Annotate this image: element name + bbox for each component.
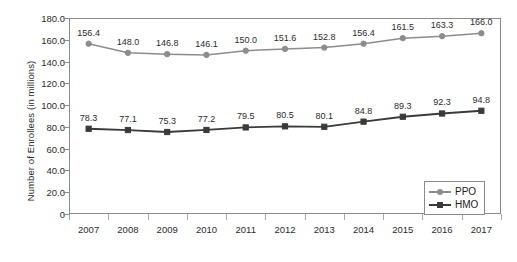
x-axis-tick-mark — [69, 214, 70, 220]
data-point — [164, 51, 169, 56]
y-axis-tick-label: 60.0 — [23, 143, 65, 154]
data-point — [243, 48, 248, 53]
y-axis-tick-label-group: 020.040.060.080.0100.0120.0140.0160.0180… — [20, 0, 65, 262]
data-point — [479, 31, 484, 36]
chart-legend: PPOHMO — [424, 181, 485, 215]
data-point — [165, 129, 170, 134]
legend-label: PPO — [455, 186, 476, 197]
x-axis-tick-mark — [383, 214, 384, 220]
legend-item-ppo[interactable]: PPO — [429, 185, 478, 198]
data-point — [125, 50, 130, 55]
data-point — [125, 127, 130, 132]
legend-swatch-hmo-icon — [429, 199, 451, 210]
legend-marker — [437, 202, 443, 208]
series-ppo — [86, 31, 484, 58]
x-axis-tick-mark — [501, 214, 502, 220]
data-point — [479, 108, 484, 113]
x-axis-tick-mark — [187, 214, 188, 220]
y-axis-tick-label: 180.0 — [23, 13, 65, 24]
legend-label: HMO — [455, 199, 478, 210]
legend-marker — [437, 189, 443, 195]
data-point — [361, 119, 366, 124]
data-point — [439, 33, 444, 38]
x-axis-tick-mark — [305, 214, 306, 220]
data-point — [400, 114, 405, 119]
data-point — [243, 125, 248, 130]
y-axis-tick-label: 100.0 — [23, 100, 65, 111]
data-point — [439, 111, 444, 116]
data-point — [282, 124, 287, 129]
data-point — [86, 126, 91, 131]
chart-figure: Number of Enrollees (in millions) 020.04… — [0, 0, 517, 262]
x-axis-tick-mark — [148, 214, 149, 220]
y-axis-tick-label: 140.0 — [23, 56, 65, 67]
data-point — [361, 41, 366, 46]
data-point — [204, 127, 209, 132]
x-axis-tick-mark — [422, 214, 423, 220]
x-axis-tick-label: 2017 — [458, 224, 504, 235]
x-axis-tick-mark — [265, 214, 266, 220]
data-point — [322, 124, 327, 129]
y-axis-tick-label: 160.0 — [23, 34, 65, 45]
data-point — [204, 52, 209, 57]
data-point — [322, 45, 327, 50]
x-axis-tick-mark — [344, 214, 345, 220]
series-hmo — [86, 108, 484, 134]
data-point — [282, 46, 287, 51]
y-axis-tick-label: 20.0 — [23, 187, 65, 198]
legend-swatch-ppo-icon — [429, 186, 451, 197]
data-point — [86, 41, 91, 46]
y-axis-tick-label: 120.0 — [23, 78, 65, 89]
data-point — [400, 35, 405, 40]
y-axis-tick-label: 80.0 — [23, 121, 65, 132]
x-axis-tick-mark — [108, 214, 109, 220]
legend-item-hmo[interactable]: HMO — [429, 198, 478, 211]
x-axis-tick-mark — [226, 214, 227, 220]
y-axis-tick-label: 0 — [23, 209, 65, 220]
y-axis-tick-label: 40.0 — [23, 165, 65, 176]
